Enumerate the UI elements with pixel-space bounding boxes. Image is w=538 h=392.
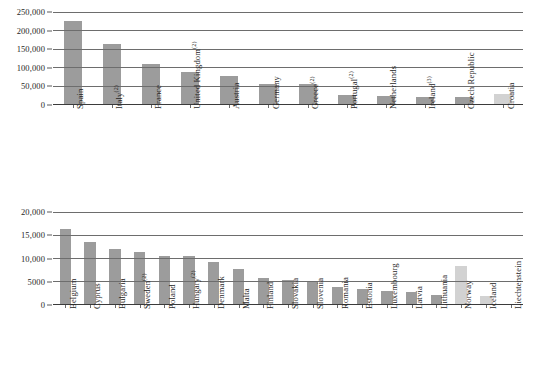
x-tick-mark bbox=[387, 305, 388, 308]
x-axis-category-label: Malta bbox=[242, 288, 251, 309]
y-tick-mark bbox=[47, 30, 52, 31]
y-tick-label: 0 bbox=[41, 101, 45, 110]
x-axis-category-label: Czech Republic bbox=[467, 52, 476, 109]
x-axis-category-label: Hungary(2) bbox=[192, 270, 201, 309]
y-tick-mark bbox=[47, 258, 52, 259]
y-tick-mark bbox=[47, 305, 52, 306]
x-axis-category-label: Portugal(2) bbox=[350, 71, 359, 109]
x-tick-mark bbox=[288, 305, 289, 308]
y-tick-mark bbox=[47, 235, 52, 236]
x-tick-mark bbox=[436, 305, 437, 308]
y-tick-label: 0 bbox=[41, 301, 45, 310]
gridline bbox=[53, 258, 523, 259]
x-tick-mark bbox=[313, 305, 314, 308]
x-axis-category-label: United Kingdom(2) bbox=[193, 41, 202, 109]
x-axis-category-label: Latvia bbox=[415, 286, 424, 309]
x-axis-category-label: Romania bbox=[341, 277, 350, 309]
x-axis-category-label: Croatia bbox=[507, 83, 516, 109]
x-tick-mark bbox=[268, 105, 269, 108]
y-tick-label: 50,000 bbox=[21, 82, 45, 91]
y-tick-mark bbox=[47, 86, 52, 87]
y-tick-mark bbox=[47, 49, 52, 50]
x-tick-mark bbox=[503, 105, 504, 108]
x-axis-category-label: Belgium bbox=[69, 278, 78, 309]
x-tick-mark bbox=[486, 305, 487, 308]
gridline bbox=[53, 12, 523, 13]
y-tick-label: 15,000 bbox=[21, 231, 45, 240]
x-axis-category-label: Ireland(3) bbox=[428, 76, 437, 109]
x-axis-category-label: Poland bbox=[168, 284, 177, 309]
x-tick-mark bbox=[425, 105, 426, 108]
x-axis-category-label: Greece(2) bbox=[311, 76, 320, 109]
x-axis-category-label: Italy(2) bbox=[115, 85, 124, 109]
x-tick-mark bbox=[140, 305, 141, 308]
x-tick-mark bbox=[239, 305, 240, 308]
y-tick-mark bbox=[47, 281, 52, 282]
y-tick-mark bbox=[47, 105, 52, 106]
x-tick-mark bbox=[461, 305, 462, 308]
y-axis-bottom: 0500010,00015,00020,000 bbox=[0, 212, 52, 305]
x-tick-mark bbox=[189, 305, 190, 308]
y-tick-mark bbox=[47, 12, 52, 13]
y-tick-mark bbox=[47, 212, 52, 213]
x-axis-category-label: Luxembourg bbox=[390, 263, 399, 309]
gridline bbox=[53, 67, 523, 68]
x-axis-category-label: Bulgaria bbox=[118, 278, 127, 309]
x-axis-labels-bottom: BelgiumCyprusBulgariaSweden(2)PolandHung… bbox=[53, 309, 523, 391]
x-axis-category-label: Norway bbox=[464, 280, 473, 309]
x-tick-mark bbox=[65, 305, 66, 308]
y-axis-top: 050,000100,000150,000200,000250,000 bbox=[0, 12, 52, 105]
x-tick-mark bbox=[151, 105, 152, 108]
x-axis-labels-top: SpainItaly(2)FranceUnited Kingdom(2)Aust… bbox=[53, 109, 523, 195]
x-axis-category-label: Sweden(2) bbox=[143, 273, 152, 309]
x-axis-category-label: Slovakia bbox=[291, 278, 300, 309]
x-tick-mark bbox=[386, 105, 387, 108]
x-axis-category-label: Spain bbox=[76, 89, 85, 109]
x-axis-category-label: Cyprus bbox=[93, 283, 102, 309]
x-axis-category-label: Finland bbox=[266, 282, 275, 309]
y-tick-label: 250,000 bbox=[17, 8, 45, 17]
gridline bbox=[53, 212, 523, 213]
bar-chart-top: 050,000100,000150,000200,000250,000 Spai… bbox=[0, 0, 538, 196]
x-axis-category-label: Germany bbox=[272, 76, 281, 109]
y-tick-label: 10,000 bbox=[21, 254, 45, 263]
x-tick-mark bbox=[112, 105, 113, 108]
x-tick-mark bbox=[511, 305, 512, 308]
x-tick-mark bbox=[73, 105, 74, 108]
x-tick-mark bbox=[412, 305, 413, 308]
y-tick-mark bbox=[47, 67, 52, 68]
bar-chart-bottom: 0500010,00015,00020,000 BelgiumCyprusBul… bbox=[0, 196, 538, 392]
y-tick-label: 200,000 bbox=[17, 26, 45, 35]
y-tick-label: 100,000 bbox=[17, 64, 45, 73]
x-tick-mark bbox=[308, 105, 309, 108]
x-axis-category-label: Netherlands bbox=[389, 66, 398, 109]
x-tick-mark bbox=[90, 305, 91, 308]
x-axis-category-label: Austria bbox=[232, 83, 241, 109]
x-tick-mark bbox=[190, 105, 191, 108]
x-axis-category-label: Denmark bbox=[217, 276, 226, 309]
x-tick-mark bbox=[214, 305, 215, 308]
x-tick-mark bbox=[337, 305, 338, 308]
x-axis-category-label: Liechtenstein bbox=[514, 261, 523, 309]
gridline bbox=[53, 49, 523, 50]
x-tick-mark bbox=[164, 305, 165, 308]
y-tick-label: 150,000 bbox=[17, 45, 45, 54]
x-axis-category-label: Lithuania bbox=[440, 275, 449, 309]
x-axis-category-label: Iceland bbox=[489, 283, 498, 309]
x-axis-category-label: France bbox=[154, 85, 163, 109]
gridline bbox=[53, 30, 523, 31]
gridline bbox=[53, 235, 523, 236]
x-axis-category-label: Estonia bbox=[365, 282, 374, 309]
x-tick-mark bbox=[347, 105, 348, 108]
y-tick-label: 20,000 bbox=[21, 208, 45, 217]
x-axis-category-label: Slovenia bbox=[316, 278, 325, 309]
x-tick-mark bbox=[115, 305, 116, 308]
y-tick-label: 5000 bbox=[28, 278, 45, 287]
